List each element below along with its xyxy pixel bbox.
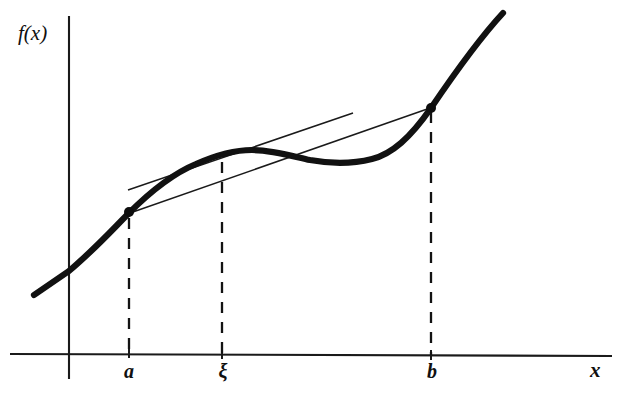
y-axis-label: f(x) xyxy=(18,21,47,46)
tick-label-b: b xyxy=(417,360,447,383)
secant-line xyxy=(130,107,433,213)
point-marker-a xyxy=(124,207,134,217)
function-curve xyxy=(34,13,503,295)
tick-label-xi: ξ xyxy=(208,360,238,383)
tick-label-a: a xyxy=(114,360,144,383)
x-axis-label: x xyxy=(590,358,601,383)
point-marker-b xyxy=(426,103,436,113)
figure-canvas: f(x) x a ξ b xyxy=(0,0,623,403)
x-axis xyxy=(10,354,612,356)
plot-svg xyxy=(0,0,623,403)
